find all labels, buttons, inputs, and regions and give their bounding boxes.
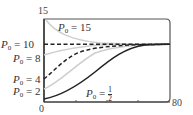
label-p0-15: P0 = 15	[58, 22, 91, 35]
label-p0-10: P0 = 10	[1, 39, 34, 52]
x-tick-80: 80	[172, 98, 182, 108]
label-p0-2: P0 = 2	[13, 86, 40, 99]
y-tick-15: 15	[38, 6, 48, 16]
label-p0-8: P0 = 8	[13, 53, 40, 66]
y-tick-0: 0	[39, 104, 44, 114]
curve-p0-2	[44, 44, 170, 89]
label-p0-half: P0 = 12	[86, 86, 112, 103]
